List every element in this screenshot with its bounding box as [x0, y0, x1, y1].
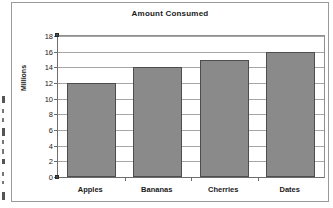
plot-area: 024681012141618	[57, 35, 325, 178]
x-tick-mark	[125, 177, 126, 181]
y-tick-mark	[54, 52, 58, 53]
scan-artifact-mark	[2, 192, 5, 200]
scan-edge-artifacts	[0, 0, 10, 208]
axis-selection-handle-bottom[interactable]	[55, 175, 59, 179]
y-axis-title-text: Millions	[20, 33, 27, 123]
y-tick-mark	[54, 83, 58, 84]
y-tick-mark	[54, 99, 58, 100]
y-tick-label: 16	[45, 47, 53, 56]
bar[interactable]	[200, 60, 249, 178]
x-category-label: Dates	[280, 185, 300, 194]
scan-artifact-mark	[2, 181, 4, 184]
axis-selection-handle-top[interactable]	[55, 33, 59, 37]
y-axis-title: Millions	[20, 0, 32, 33]
gridline	[58, 36, 324, 37]
x-category-label: Apples	[78, 185, 103, 194]
scan-artifact-mark	[2, 159, 5, 164]
scan-artifact-mark	[2, 149, 4, 154]
y-tick-label: 14	[45, 63, 53, 72]
scan-artifact-mark	[2, 109, 4, 113]
x-tick-mark	[258, 177, 259, 181]
y-tick-label: 12	[45, 79, 53, 88]
y-tick-label: 6	[49, 126, 53, 135]
y-tick-label: 18	[45, 32, 53, 41]
y-tick-label: 10	[45, 94, 53, 103]
y-tick-mark	[54, 67, 58, 68]
bar[interactable]	[67, 83, 116, 177]
y-tick-label: 4	[49, 141, 53, 150]
scan-artifact-mark	[2, 96, 5, 103]
y-tick-label: 8	[49, 110, 53, 119]
chart-title: Amount Consumed	[12, 9, 328, 18]
scan-artifact-mark	[2, 172, 4, 176]
scan-artifact-mark	[2, 128, 5, 136]
x-category-label: Cherries	[208, 185, 238, 194]
x-tick-mark	[191, 177, 192, 181]
y-tick-label: 0	[49, 173, 53, 182]
y-tick-mark	[54, 114, 58, 115]
y-tick-mark	[54, 161, 58, 162]
x-category-label: Bananas	[141, 185, 172, 194]
y-tick-mark	[54, 146, 58, 147]
y-tick-label: 2	[49, 157, 53, 166]
y-tick-mark	[54, 130, 58, 131]
scan-artifact-mark	[2, 140, 4, 144]
bar[interactable]	[266, 52, 315, 177]
chart-frame: Amount Consumed Millions 024681012141618…	[11, 2, 329, 202]
bar[interactable]	[133, 67, 182, 177]
x-axis-category-labels: ApplesBananasCherriesDates	[57, 185, 325, 197]
scan-artifact-mark	[2, 118, 4, 122]
